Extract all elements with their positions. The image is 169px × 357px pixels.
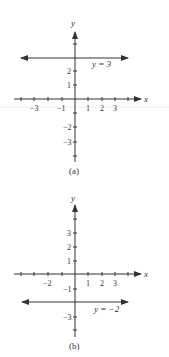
graph-b: y x y = −2 −2 1 2 3 3 2 1 −1 −3 (b) bbox=[14, 193, 148, 351]
y-tick-label: 2 bbox=[67, 67, 71, 76]
y-axis-label: y bbox=[70, 193, 75, 203]
x-axis-label: x bbox=[143, 269, 148, 279]
x-tick-label: 3 bbox=[113, 104, 117, 113]
y-tick-label: 1 bbox=[67, 257, 71, 266]
line-label: y = −2 bbox=[93, 304, 120, 314]
y-tick-label: 2 bbox=[67, 243, 71, 252]
caption-b: (b) bbox=[69, 341, 80, 351]
caption-a: (a) bbox=[69, 166, 79, 176]
x-tick-label: 3 bbox=[113, 279, 117, 288]
x-tick-label: −2 bbox=[43, 279, 52, 288]
x-tick-label: 2 bbox=[100, 104, 104, 113]
y-tick-label: −3 bbox=[63, 313, 72, 322]
y-axis-label: y bbox=[70, 18, 75, 28]
x-tick-label: 1 bbox=[86, 104, 90, 113]
y-tick-label: −3 bbox=[63, 138, 72, 147]
x-tick-label: −1 bbox=[57, 104, 66, 113]
x-axis-label: x bbox=[143, 94, 148, 104]
graph-a: y x y = 3 −3 −1 1 2 3 2 1 −2 −3 (a) bbox=[0, 18, 169, 176]
figure-canvas: y x y = 3 −3 −1 1 2 3 2 1 −2 −3 (a) bbox=[0, 0, 169, 357]
x-tick-label: −3 bbox=[30, 104, 39, 113]
x-tick-label: 2 bbox=[100, 279, 104, 288]
y-tick-label: −1 bbox=[63, 285, 72, 294]
line-label: y = 3 bbox=[91, 59, 112, 69]
x-tick-label: 1 bbox=[86, 279, 90, 288]
y-tick-label: 3 bbox=[67, 229, 71, 238]
y-tick-label: 1 bbox=[67, 81, 71, 90]
y-tick-label: −2 bbox=[63, 123, 72, 132]
